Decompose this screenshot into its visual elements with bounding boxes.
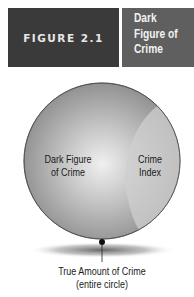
- crime-index-label-line2: Index: [130, 166, 170, 179]
- callout-label-line1: True Amount of Crime: [48, 265, 156, 278]
- dark-figure-label: Dark Figure of Crime: [43, 153, 93, 179]
- crime-index-label-line1: Crime: [130, 153, 170, 166]
- dark-figure-label-line2: of Crime: [43, 166, 93, 179]
- callout-label: True Amount of Crime (entire circle): [48, 265, 156, 291]
- crime-circle-diagram: [0, 0, 194, 297]
- callout-dot: [99, 239, 105, 245]
- callout-label-line2: (entire circle): [48, 278, 156, 291]
- crime-index-label: Crime Index: [130, 153, 170, 179]
- dark-figure-label-line1: Dark Figure: [43, 153, 93, 166]
